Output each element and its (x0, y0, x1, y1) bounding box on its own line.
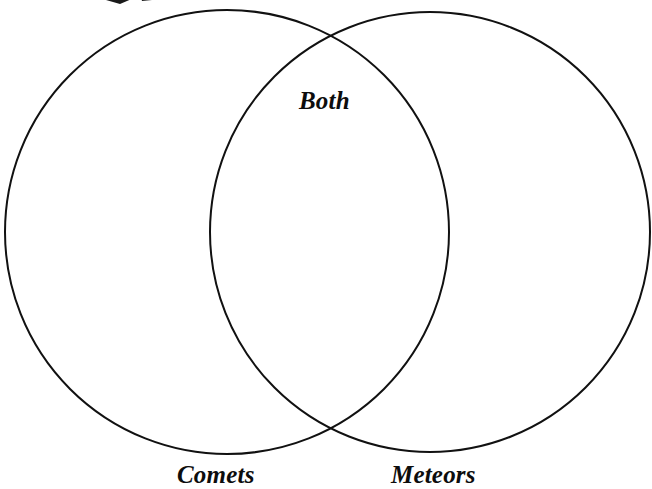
venn-label-meteors: Meteors (391, 462, 476, 487)
venn-overlap-label-both: Both (299, 88, 350, 113)
venn-label-comets: Comets (177, 462, 255, 487)
diagram-background (0, 0, 652, 489)
venn-diagram-svg (0, 0, 652, 489)
venn-diagram-canvas: Both Comets Meteors (0, 0, 652, 489)
cropped-ink-mark-icon (104, 0, 170, 8)
